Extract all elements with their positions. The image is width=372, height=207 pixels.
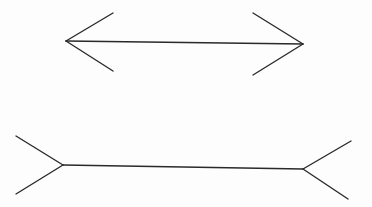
- bottom-right-lower-fin: [303, 169, 348, 199]
- muller-lyer-diagram: [0, 0, 372, 207]
- top-right-lower-fin: [253, 44, 303, 75]
- top-right-upper-fin: [253, 13, 303, 44]
- top-shaft-line: [66, 41, 303, 44]
- figure-arrowheads-inward: [66, 13, 303, 75]
- bottom-shaft-line: [63, 165, 303, 169]
- bottom-left-upper-fin: [16, 136, 63, 165]
- top-left-upper-fin: [66, 13, 113, 41]
- top-left-lower-fin: [66, 41, 113, 71]
- figure-arrowheads-outward: [16, 136, 351, 199]
- bottom-left-lower-fin: [16, 165, 63, 194]
- diagram-svg: [0, 0, 372, 207]
- bottom-right-upper-fin: [303, 141, 351, 169]
